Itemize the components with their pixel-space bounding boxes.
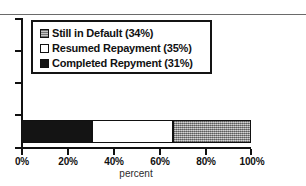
x-axis-tick — [21, 149, 23, 155]
x-axis-tick — [113, 149, 115, 155]
x-axis-line — [21, 147, 251, 149]
x-axis-tick-label-80: 80% — [196, 156, 215, 167]
y-axis-tick — [15, 18, 22, 20]
legend-swatch-white-icon — [40, 44, 49, 53]
legend-label-completed-repayment: Completed Repyment (31%) — [52, 57, 193, 70]
legend-label-resumed-repayment: Resumed Repayment (35%) — [52, 42, 192, 55]
y-axis-tick — [15, 114, 22, 116]
bar-segment-resumed-repayment — [92, 120, 173, 143]
x-axis-tick-label-40: 40% — [104, 156, 123, 167]
bar-segment-completed-repayment — [21, 120, 92, 143]
x-axis-tick — [250, 149, 252, 155]
y-axis-tick — [15, 82, 22, 84]
x-axis-tick — [159, 149, 161, 155]
legend-item-resumed-repayment: Resumed Repayment (35%) — [40, 41, 210, 56]
x-axis-tick-label-0: 0% — [15, 156, 29, 167]
legend-label-still-in-default: Still in Default (34%) — [52, 27, 153, 40]
x-axis-tick — [205, 149, 207, 155]
legend-swatch-gray-hatched-icon — [40, 29, 49, 38]
legend-swatch-black-icon — [40, 59, 49, 68]
chart-figure: 0% 20% 40% 60% 80% 100% percent Still in… — [0, 0, 306, 186]
x-axis-tick-label-60: 60% — [150, 156, 169, 167]
y-axis-tick — [15, 50, 22, 52]
legend-item-completed-repayment: Completed Repyment (31%) — [40, 56, 210, 71]
bar-segment-still-in-default — [173, 120, 251, 143]
chart-legend: Still in Default (34%) Resumed Repayment… — [31, 20, 212, 74]
x-axis-tick-label-100: 100% — [240, 156, 265, 167]
x-axis-tick-label-20: 20% — [58, 156, 77, 167]
top-divider-rule — [0, 14, 306, 15]
x-axis-title: percent — [119, 168, 152, 179]
legend-item-still-in-default: Still in Default (34%) — [40, 26, 210, 41]
x-axis-tick — [67, 149, 69, 155]
